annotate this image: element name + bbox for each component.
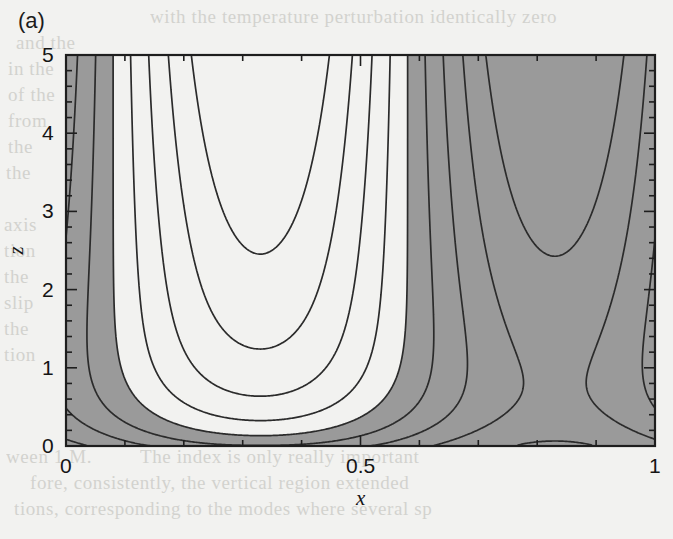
x-axis-tick-label: 1 (649, 454, 661, 478)
z-axis-tick-label: 0 (42, 434, 54, 458)
z-axis-tick-label: 5 (42, 43, 54, 67)
contour-figure (0, 0, 673, 539)
panel-label: (a) (18, 8, 45, 34)
z-axis-tick-label: 2 (42, 278, 54, 302)
x-axis-tick-label: 0.5 (346, 454, 375, 478)
z-axis-title: z (4, 246, 29, 254)
z-axis-tick-label: 1 (42, 356, 54, 380)
x-axis-tick-label: 0 (60, 454, 72, 478)
contour-shaded-regions (66, 55, 655, 446)
z-axis-tick-label: 4 (42, 121, 54, 145)
x-axis-title: x (356, 486, 365, 511)
scanned-page: with the temperature perturbation identi… (0, 0, 673, 539)
z-axis-tick-label: 3 (42, 199, 54, 223)
